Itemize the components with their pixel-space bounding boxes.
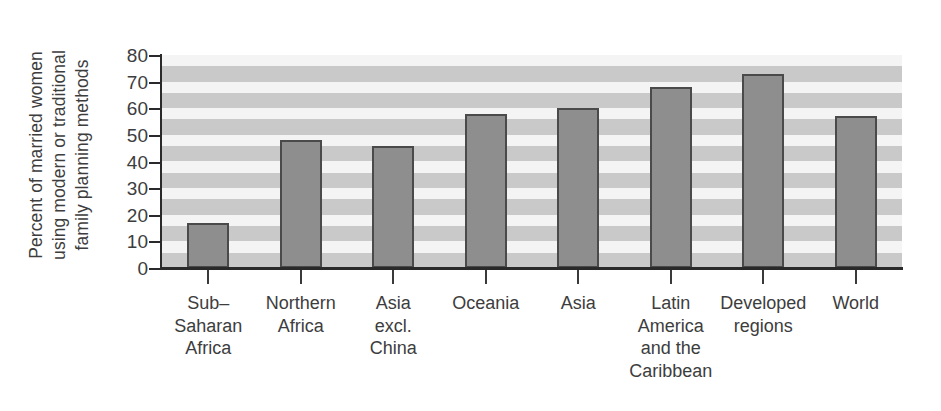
grid-band-light [162, 162, 902, 173]
y-axis-tick-label: 70 [100, 73, 148, 92]
bar [650, 87, 692, 268]
y-axis-tick-labels: 01020304050607080 [100, 44, 148, 278]
x-axis-tick-mark [392, 270, 394, 284]
grid-band-dark [162, 253, 902, 268]
grid-band-light [162, 135, 902, 146]
y-axis-tick-label: 80 [100, 46, 148, 65]
bar [280, 140, 322, 268]
x-axis-tick-mark [577, 270, 579, 284]
bar-chart-figure: Percent of married women using modern or… [0, 0, 941, 411]
y-axis-tick-mark [149, 268, 161, 270]
grid-band-light [162, 241, 902, 252]
grid-band-dark [162, 199, 902, 214]
bar [835, 116, 877, 268]
y-axis-tick-mark [149, 55, 161, 57]
y-axis-title-line-2: using modern or traditional [49, 50, 70, 260]
grid-band-dark [162, 173, 902, 188]
grid-band-light [162, 82, 902, 93]
grid-band-dark [162, 226, 902, 241]
grid-band-light [162, 108, 902, 119]
grid-band-light [162, 215, 902, 226]
y-axis-tick-mark [149, 162, 161, 164]
y-axis-tick-mark [149, 241, 161, 243]
y-axis-tick-label: 50 [100, 126, 148, 145]
bar [465, 114, 507, 268]
y-axis-tick-label: 40 [100, 153, 148, 172]
y-axis-tick-label: 30 [100, 179, 148, 198]
x-axis-tick-mark [300, 270, 302, 284]
y-axis-tick-mark [149, 215, 161, 217]
x-axis-tick-mark [485, 270, 487, 284]
bar [187, 223, 229, 268]
bar [557, 108, 599, 268]
y-axis-title-line-3: family planning methods [72, 59, 93, 250]
grid-band-dark [162, 66, 902, 81]
grid-band-light [162, 188, 902, 199]
y-axis-tick-mark [149, 82, 161, 84]
grid-band-light [162, 55, 902, 66]
y-axis-tick-mark [149, 188, 161, 190]
bar [742, 74, 784, 268]
x-axis-tick-mark [855, 270, 857, 284]
y-axis-tick-mark [149, 135, 161, 137]
x-axis-category-label: World [786, 292, 926, 315]
grid-band-dark [162, 146, 902, 161]
grid-band-dark [162, 93, 902, 108]
y-axis-tick-mark [149, 108, 161, 110]
x-axis-tick-mark [670, 270, 672, 284]
y-axis-tick-label: 0 [100, 259, 148, 278]
x-axis-tick-mark [207, 270, 209, 284]
x-axis-line [160, 267, 903, 270]
x-axis-tick-mark [762, 270, 764, 284]
bar [372, 146, 414, 268]
y-axis-tick-label: 10 [100, 232, 148, 251]
plot-area [162, 55, 902, 268]
y-axis-title-line-1: Percent of married women [26, 51, 47, 259]
y-axis-tick-label: 60 [100, 99, 148, 118]
grid-band-dark [162, 119, 902, 134]
y-axis-tick-label: 20 [100, 206, 148, 225]
